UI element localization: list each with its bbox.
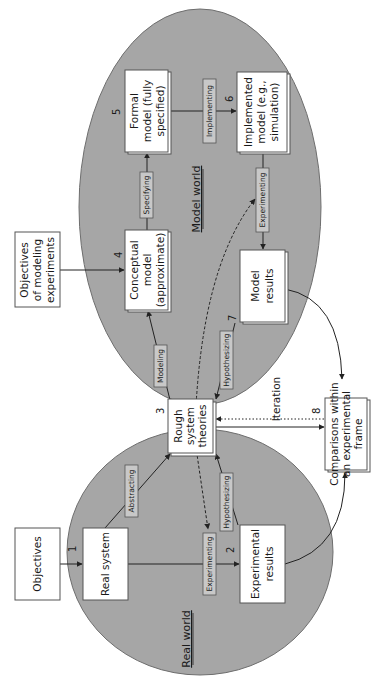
svg-text:Modeling: Modeling — [156, 349, 165, 383]
implemented-model-label-2: model (e.g., — [255, 80, 267, 143]
experimental-results-label-2: results — [263, 546, 275, 581]
tag-specifying: Specifying — [140, 172, 153, 218]
rough-theories-label-2: system — [184, 407, 196, 445]
node-real-system: Real system — [83, 528, 128, 600]
step-number-3: 3 — [155, 408, 166, 414]
tag-experimenting-model: Experimenting — [256, 168, 269, 232]
svg-text:Abstracting: Abstracting — [127, 469, 136, 512]
node-comparisons: Comparisons within an experimental frame — [325, 382, 370, 486]
rough-theories-label-1: Rough — [172, 409, 184, 442]
diagram-canvas: Model world Real world Objectives Real s… — [0, 0, 372, 699]
step-number-6: 6 — [224, 96, 235, 102]
tag-experimenting-real: Experimenting — [203, 533, 216, 595]
svg-text:Implementing: Implementing — [205, 85, 214, 137]
node-implemented-model: Implemented model (e.g., simulation) — [237, 72, 290, 154]
real-system-label: Real system — [99, 532, 111, 596]
objectives-modeling-label-1: Objectives — [18, 242, 30, 297]
step-number-5: 5 — [111, 109, 122, 115]
svg-text:Hypothesizing: Hypothesizing — [222, 475, 231, 529]
iteration-label: Iteration — [270, 377, 282, 422]
comparisons-label-3: frame — [352, 418, 364, 449]
conceptual-model-label-1: Conceptual — [128, 240, 140, 299]
formal-model-label-2: model (fully — [141, 80, 153, 143]
node-conceptual-model: Conceptual model (approximate) — [125, 230, 171, 312]
node-objectives: Objectives — [15, 528, 60, 600]
node-experimental-results: Experimental results — [240, 525, 285, 603]
step-number-7: 7 — [227, 315, 238, 321]
implemented-model-label-3: simulation) — [268, 83, 280, 142]
svg-text:Experimenting: Experimenting — [205, 536, 214, 591]
tag-hypothesizing-real: Hypothesizing — [220, 473, 233, 531]
objectives-label: Objectives — [31, 536, 43, 591]
tag-abstracting: Abstracting — [125, 465, 138, 517]
conceptual-model-label-2: model — [141, 254, 153, 287]
real-world-label: Real world — [180, 610, 193, 668]
implemented-model-label-1: Implemented — [242, 77, 254, 147]
svg-text:Experimenting: Experimenting — [258, 172, 267, 227]
objectives-modeling-label-3: experiments — [44, 237, 56, 303]
node-formal-model: Formal model (fully specified) — [125, 70, 171, 154]
step-number-2: 2 — [225, 547, 236, 553]
node-model-results: Model results — [240, 250, 288, 324]
conceptual-model-label-3: (approximate) — [154, 233, 166, 308]
node-rough-theories: Rough system theories — [168, 399, 216, 456]
svg-text:Specifying: Specifying — [142, 175, 151, 214]
formal-model-label-3: specified) — [154, 85, 166, 136]
comparisons-label-1: Comparisons within — [328, 382, 340, 486]
step-number-8: 8 — [311, 408, 322, 414]
tag-implementing: Implementing — [203, 79, 216, 143]
diagram-svg: Model world Real world Objectives Real s… — [0, 0, 372, 699]
step-number-1: 1 — [67, 546, 78, 552]
rough-theories-label-3: theories — [196, 405, 208, 448]
comparisons-label-2: an experimental — [340, 391, 352, 477]
tag-hypothesizing-model: Hypothesizing — [220, 331, 233, 389]
formal-model-label-1: Formal — [128, 93, 140, 129]
tag-modeling: Modeling — [154, 345, 167, 387]
model-results-label-1: Model — [249, 270, 261, 302]
node-objectives-modeling: Objectives of modeling experiments — [15, 232, 60, 307]
model-results-label-2: results — [263, 268, 275, 303]
experimental-results-label-1: Experimental — [249, 529, 261, 599]
svg-text:Hypothesizing: Hypothesizing — [222, 333, 231, 387]
model-world-label: Model world — [190, 166, 203, 233]
step-number-4: 4 — [113, 252, 124, 258]
objectives-modeling-label-2: of modeling — [31, 239, 43, 301]
